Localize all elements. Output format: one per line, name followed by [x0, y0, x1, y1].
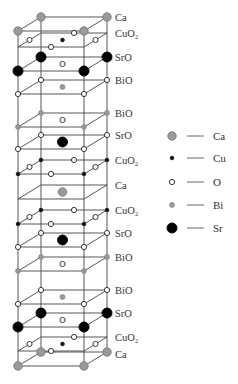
ca-atom-icon — [168, 132, 176, 140]
layer-right-edge — [84, 80, 107, 94]
o-atom-icon — [60, 61, 65, 66]
sr-atom-icon — [79, 322, 89, 332]
legend-item-ca: Ca — [168, 130, 226, 142]
layer-label: BiO — [115, 108, 133, 119]
o-atom-icon — [104, 230, 109, 235]
o-atom-icon — [48, 44, 53, 49]
o-atom-icon — [38, 287, 43, 292]
sr-atom-icon — [13, 66, 23, 76]
o-atom-icon — [93, 37, 98, 42]
o-atom-icon — [27, 341, 32, 346]
layer-left-edge — [18, 233, 41, 247]
ca-atom-icon — [14, 27, 22, 35]
ca-atom-icon — [37, 348, 45, 356]
bi-atom-icon — [16, 269, 21, 274]
layer-label: SrO — [115, 130, 132, 141]
legend: CaCuOBiSr — [167, 130, 226, 234]
bi-atom-icon — [82, 125, 87, 130]
o-atom-icon — [27, 37, 32, 42]
bi-atom-icon — [39, 255, 44, 260]
o-atom-icon — [93, 214, 98, 219]
o-atom-icon — [38, 230, 43, 235]
o-atom-icon — [48, 348, 53, 353]
o-atom-icon — [71, 207, 76, 212]
sr-atom-icon — [36, 52, 46, 62]
layer-label: BiO — [115, 75, 133, 86]
o-atom-icon — [27, 164, 32, 169]
layer-right-edge — [84, 135, 107, 149]
legend-label: Ca — [213, 130, 225, 142]
o-atom-icon — [93, 341, 98, 346]
layer-left-edge — [18, 113, 41, 127]
o-atom-icon — [81, 244, 86, 249]
layer-label: SrO — [115, 228, 132, 239]
sr-atom-icon — [102, 308, 112, 318]
o-atom-icon — [60, 317, 65, 322]
legend-item-cu: Cu — [170, 152, 226, 164]
cu-atom-icon — [61, 38, 65, 42]
layer-label: Ca — [115, 180, 127, 191]
cu-atom-icon — [16, 222, 20, 226]
ca-atom-icon — [80, 362, 88, 370]
sr-atom-icon — [36, 308, 46, 318]
legend-label: Sr — [213, 222, 223, 234]
o-atom-icon — [81, 146, 86, 151]
bi-atom-icon — [60, 85, 65, 90]
layer-label: CuO₂ — [115, 332, 139, 343]
crystal-structure-diagram: CaCuO₂SrOBiOBiOSrOCuO₂CaCuO₂SrOBiOBiOSrO… — [0, 0, 238, 384]
sr-atom-icon — [58, 137, 68, 147]
sr-atom-icon — [58, 235, 68, 245]
layer-label: SrO — [115, 308, 132, 319]
o-atom-icon — [81, 301, 86, 306]
layer-label: Ca — [115, 12, 127, 23]
layer-label: Ca — [115, 349, 127, 360]
layer-label: BiO — [115, 285, 133, 296]
bi-atom-icon — [105, 111, 110, 116]
o-atom-icon — [93, 164, 98, 169]
o-atom-icon — [15, 301, 20, 306]
cu-atom-icon — [82, 222, 86, 226]
layer-right-edge — [84, 257, 107, 271]
o-atom-icon — [71, 30, 76, 35]
sr-atom-icon — [102, 52, 112, 62]
layer-right-edge — [84, 113, 107, 127]
layer-label: CuO₂ — [115, 28, 139, 39]
sr-atom-icon — [79, 66, 89, 76]
o-atom-icon — [15, 244, 20, 249]
sr-atom-icon — [167, 223, 177, 233]
cu-atom-icon — [105, 158, 109, 162]
layer-labels: CaCuO₂SrOBiOBiOSrOCuO₂CaCuO₂SrOBiOBiOSrO… — [115, 12, 139, 360]
layer-left-edge — [18, 135, 41, 149]
cu-atom-icon — [39, 208, 43, 212]
bi-atom-icon — [39, 111, 44, 116]
layer-left-edge — [18, 257, 41, 271]
o-atom-icon — [48, 171, 53, 176]
layer-label: BiO — [115, 252, 133, 263]
ca-atom-icon — [103, 13, 111, 21]
ca-atom-icon — [58, 188, 66, 196]
ca-atom-icon — [37, 13, 45, 21]
layer-right-edge — [84, 290, 107, 304]
o-atom-icon — [48, 221, 53, 226]
o-atom-icon — [104, 132, 109, 137]
o-atom-icon — [38, 132, 43, 137]
layer-left-edge — [18, 185, 41, 199]
legend-item-bi: Bi — [170, 199, 224, 211]
layer-left-edge — [18, 290, 41, 304]
o-atom-icon — [60, 117, 65, 122]
cu-atom-icon — [16, 172, 20, 176]
layer-label: CuO₂ — [115, 155, 139, 166]
layer-label: SrO — [115, 52, 132, 63]
cu-atom-icon — [61, 342, 65, 346]
ca-atom-icon — [14, 362, 22, 370]
o-atom-icon — [104, 287, 109, 292]
legend-label: Cu — [213, 152, 226, 164]
layer-right-edge — [84, 233, 107, 247]
legend-label: Bi — [213, 199, 223, 211]
o-atom-icon — [38, 77, 43, 82]
cu-atom-icon — [105, 208, 109, 212]
cu-atom-icon — [39, 158, 43, 162]
ca-atom-icon — [80, 27, 88, 35]
legend-label: O — [213, 176, 221, 188]
o-atom-icon — [60, 261, 65, 266]
